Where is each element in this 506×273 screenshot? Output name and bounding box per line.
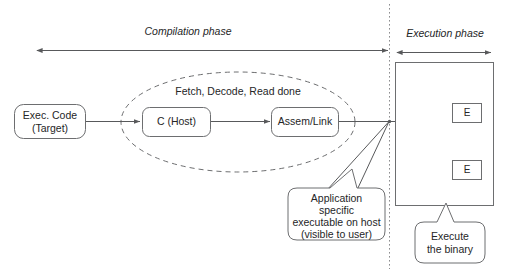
execution-container-box [396, 63, 494, 206]
callout-execute-balloon [415, 203, 485, 263]
execution-unit-box-1 [453, 104, 482, 123]
node-c-host [143, 108, 211, 137]
diagram-canvas: Compilation phase Execution phase Fetch,… [0, 0, 506, 273]
execution-unit-box-2 [453, 161, 482, 180]
leader-line-application-right [357, 122, 389, 191]
diagram-vector-layer [0, 0, 506, 273]
node-exec-code [15, 105, 86, 139]
node-assem-link [272, 108, 339, 137]
